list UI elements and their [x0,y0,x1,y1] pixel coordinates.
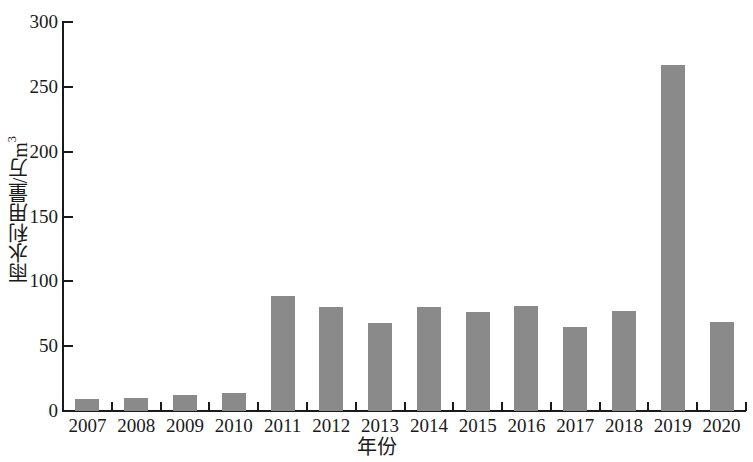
x-axis-tick [208,402,210,411]
bar-2014 [417,307,441,411]
x-axis-tick-label: 2020 [697,416,747,435]
y-axis-tick-label: 250 [10,77,58,96]
x-axis-tick-label: 2015 [453,416,503,435]
y-axis-tick-label: 300 [10,12,58,31]
x-axis-tick [355,402,357,411]
x-axis-tick [111,402,113,411]
x-axis-tick [306,402,308,411]
bar-2018 [612,311,636,411]
y-axis-tick [64,410,73,412]
bar-2013 [368,323,392,411]
x-axis-tick [745,402,747,411]
x-axis-tick [160,402,162,411]
x-axis-tick-label: 2007 [62,416,112,435]
y-axis-tick-label: 100 [10,271,58,290]
bar-2017 [563,327,587,411]
rainwater-utilization-bar-chart: 雨水利用量/万m3 050100150200250300 20072008200… [0,0,753,462]
x-axis-tick [550,402,552,411]
x-axis-tick-label: 2016 [501,416,551,435]
x-axis-tick [452,402,454,411]
x-axis-tick [501,402,503,411]
bar-2007 [75,399,99,411]
x-axis-tick [257,402,259,411]
y-axis-tick-label: 150 [10,207,58,226]
y-axis-tick-label: 200 [10,142,58,161]
x-axis-tick-label: 2013 [355,416,405,435]
x-axis-tick-label: 2008 [111,416,161,435]
x-axis-tick-label: 2017 [550,416,600,435]
x-axis-tick [404,402,406,411]
bar-2011 [271,296,295,411]
bar-2012 [319,307,343,411]
x-axis-tick-label: 2011 [258,416,308,435]
y-axis-tick-label: 0 [10,401,58,420]
x-axis-tick [599,402,601,411]
x-axis-tick-label: 2012 [306,416,356,435]
y-axis-tick [64,345,73,347]
y-axis-tick [64,280,73,282]
bar-2016 [514,306,538,411]
bar-2010 [222,393,246,411]
x-axis-tick-label: 2009 [160,416,210,435]
y-axis-tick [64,86,73,88]
bar-2015 [466,312,490,411]
x-axis-tick-label: 2010 [209,416,259,435]
bar-2009 [173,395,197,411]
y-axis-tick [64,216,73,218]
x-axis-tick [647,402,649,411]
x-axis-title: 年份 [0,437,753,457]
x-axis-tick [696,402,698,411]
y-axis-tick [64,21,73,23]
x-axis-tick-label: 2014 [404,416,454,435]
y-axis-tick [64,151,73,153]
bar-2008 [124,398,148,411]
x-axis-tick-label: 2019 [648,416,698,435]
x-axis-tick-label: 2018 [599,416,649,435]
y-axis-tick-label: 50 [10,336,58,355]
bar-2020 [710,322,734,411]
bar-2019 [661,65,685,411]
